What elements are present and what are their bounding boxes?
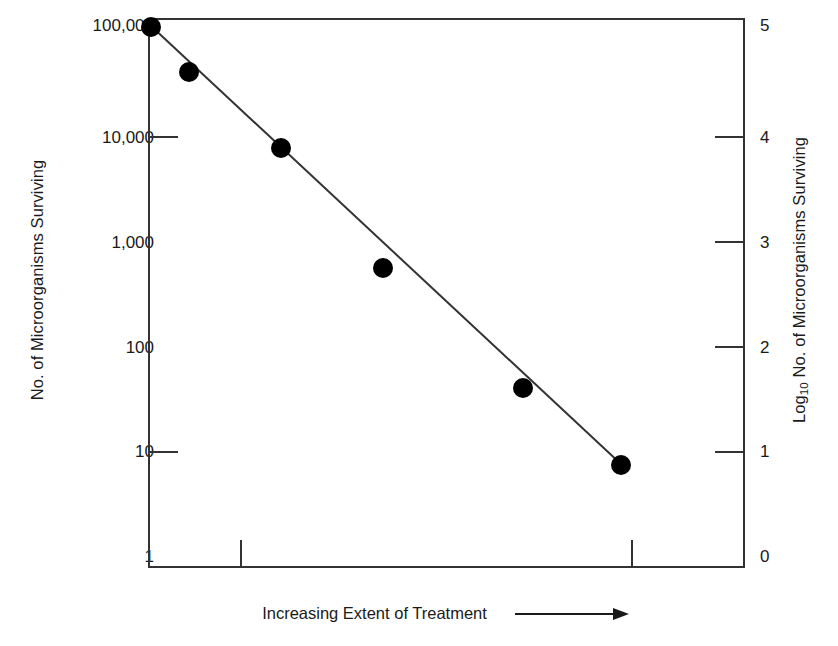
x-axis-title: Increasing Extent of Treatment (262, 604, 487, 623)
y-axis-left-ticks (149, 137, 178, 452)
data-point (141, 17, 161, 37)
x-axis-title-group: Increasing Extent of Treatment (148, 598, 745, 628)
arrow-right-icon (515, 606, 631, 622)
data-point (271, 138, 291, 158)
data-point (611, 455, 631, 475)
data-point (373, 258, 393, 278)
data-point (513, 378, 533, 398)
survivor-curve-figure: No. of Microorganisms Surviving Log10 No… (0, 0, 838, 646)
data-point (179, 62, 199, 82)
y-axis-right-ticks (715, 137, 744, 452)
axis-frame (148, 19, 745, 568)
survivor-fit-line (150, 25, 622, 465)
plot-area (0, 0, 838, 646)
x-axis-ticks (241, 540, 632, 567)
